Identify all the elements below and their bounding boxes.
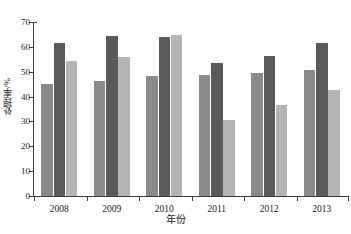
bar: [41, 84, 53, 196]
bar: [106, 36, 118, 196]
x-tick-mark: [348, 197, 349, 201]
y-tick-label: 70: [21, 18, 30, 27]
bar: [251, 73, 263, 196]
bar: [276, 105, 288, 196]
x-tick-mark: [244, 197, 245, 201]
bar: [94, 81, 106, 196]
chart-legend: [186, 0, 199, 2]
y-tick-label: 30: [21, 117, 30, 126]
bar: [118, 57, 130, 196]
bar: [304, 70, 316, 196]
y-tick-label: 40: [21, 92, 30, 101]
x-tick-mark: [34, 197, 35, 201]
y-axis-title: 处理率/%: [2, 78, 14, 115]
x-tick-mark: [87, 197, 88, 201]
y-tick-label: 10: [21, 167, 30, 176]
bar: [211, 63, 223, 196]
y-tick-label: 50: [21, 67, 30, 76]
bar: [316, 43, 328, 196]
bar: [146, 76, 158, 196]
bar: [54, 43, 66, 196]
y-axis-top-cap: [33, 22, 37, 23]
bar: [159, 37, 171, 196]
bar: [223, 120, 235, 196]
x-tick-mark: [192, 197, 193, 201]
bar: [66, 61, 78, 196]
bar: [199, 75, 211, 196]
y-tick-label: 20: [21, 142, 30, 151]
x-tick-mark: [297, 197, 298, 201]
x-tick-mark: [139, 197, 140, 201]
bar-chart-figure: 处理率/% 010203040506070 200820092010201120…: [0, 0, 351, 234]
y-axis-line: [33, 22, 34, 197]
bar: [328, 90, 340, 196]
y-tick-label: 0: [26, 192, 31, 201]
x-axis-title: 年份: [0, 214, 351, 226]
bar: [264, 56, 276, 196]
bar: [171, 35, 183, 196]
y-tick-label: 60: [21, 42, 30, 51]
plot-area: 010203040506070 200820092010201120122013: [33, 22, 348, 196]
